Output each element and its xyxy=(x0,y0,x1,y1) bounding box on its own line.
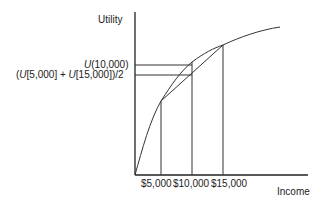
tick-10000: $10,000 xyxy=(173,178,209,189)
utility-curve xyxy=(135,27,280,175)
y-axis-label: Utility xyxy=(98,14,122,25)
average-utility-label: (U[5,000] + U[15,000])/2 xyxy=(16,69,124,80)
tick-15000: $15,000 xyxy=(211,178,247,189)
tick-5000: $5,000 xyxy=(141,178,172,189)
x-axis-label: Income xyxy=(277,186,310,197)
utility-diagram xyxy=(0,0,324,204)
